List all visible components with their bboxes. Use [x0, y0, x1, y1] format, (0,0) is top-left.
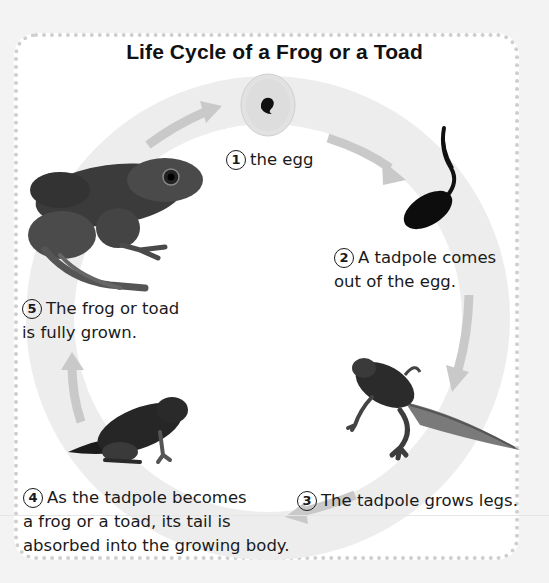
- stage-4-text-line-3: absorbed into the growing body.: [23, 536, 290, 555]
- stage-1-label: 1the egg: [226, 148, 313, 172]
- stage-5-number: 5: [22, 299, 42, 319]
- stage-4-number: 4: [23, 488, 43, 508]
- stage-2-label: 2A tadpole comes out of the egg.: [334, 246, 496, 294]
- stage-3-text: The tadpole grows legs.: [321, 491, 518, 510]
- stage-2-number: 2: [334, 248, 354, 268]
- stage-2-text-line-2: out of the egg.: [334, 272, 456, 291]
- stage-1-number: 1: [226, 150, 246, 170]
- stage-2-text-line-1: A tadpole comes: [358, 248, 496, 267]
- stage-3-number: 3: [297, 491, 317, 511]
- stage-4-text-line-1: As the tadpole becomes: [47, 488, 247, 507]
- stage-4-label: 4As the tadpole becomes a frog or a toad…: [23, 486, 290, 558]
- stage-5-text-line-2: is fully grown.: [22, 323, 137, 342]
- stage-1-text: the egg: [250, 150, 313, 169]
- stage-5-label: 5The frog or toad is fully grown.: [22, 297, 179, 345]
- stage-3-label: 3The tadpole grows legs.: [297, 489, 518, 513]
- egg-icon: [241, 74, 295, 136]
- stage-5-text-line-1: The frog or toad: [46, 299, 179, 318]
- stage-4-text-line-2: a frog or a toad, its tail is: [23, 512, 231, 531]
